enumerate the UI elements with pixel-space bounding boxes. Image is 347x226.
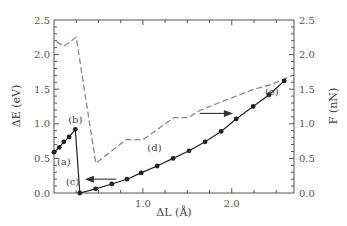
annotation-label: (c) <box>66 176 80 187</box>
data-point-marker <box>77 191 82 196</box>
y-tick-label: 1.0 <box>34 118 50 129</box>
data-point-marker <box>93 186 98 191</box>
data-point-marker <box>139 171 144 176</box>
y2-tick-label: 1.0 <box>299 118 315 129</box>
y2-tick-label: 2.5 <box>299 15 315 26</box>
y-tick-label: 0.5 <box>34 153 50 164</box>
data-point-marker <box>73 127 78 132</box>
data-point-marker <box>171 156 176 161</box>
energy-line <box>54 81 284 193</box>
annotation-label: (d) <box>147 142 161 153</box>
annotation-label: (b) <box>68 114 82 125</box>
data-point-marker <box>282 78 287 83</box>
data-point-marker <box>57 145 62 150</box>
y2-tick-label: 0.0 <box>299 188 315 199</box>
force-curve <box>57 37 293 163</box>
plot-frame <box>54 20 294 193</box>
y-tick-label: 0.0 <box>34 188 50 199</box>
arrow-left-icon <box>85 176 94 183</box>
y2-axis-title: F (nN) <box>327 88 340 124</box>
data-point-marker <box>67 135 72 140</box>
y-tick-label: 1.5 <box>34 84 50 95</box>
data-point-marker <box>219 129 224 134</box>
y-axis-title: ΔE (eV) <box>10 85 23 128</box>
x-tick-label: 1.0 <box>135 198 151 209</box>
annotation-label: (e) <box>265 86 279 97</box>
data-point-marker <box>187 148 192 153</box>
data-point-marker <box>203 139 208 144</box>
annotation-label: (a) <box>57 156 71 167</box>
chart: 1.02.00.00.51.01.52.02.50.00.51.01.52.02… <box>0 0 347 226</box>
arrow-right-icon <box>224 110 233 117</box>
y2-tick-label: 0.5 <box>299 153 315 164</box>
force-line <box>57 37 293 163</box>
y-tick-label: 2.0 <box>34 49 50 60</box>
x-axis-title: ΔL (Å) <box>156 205 191 219</box>
energy-curve <box>52 78 287 195</box>
data-point-marker <box>124 177 129 182</box>
data-point-marker <box>234 117 239 122</box>
y-tick-label: 2.5 <box>34 15 50 26</box>
point-annotations: (a)(b)(c)(d)(e) <box>57 86 279 187</box>
data-point-marker <box>251 104 256 109</box>
data-point-marker <box>155 164 160 169</box>
axis-ticks <box>54 20 294 193</box>
y2-tick-label: 2.0 <box>299 49 315 60</box>
data-point-marker <box>61 139 66 144</box>
data-point-marker <box>109 182 114 187</box>
y2-tick-label: 1.5 <box>299 84 315 95</box>
x-tick-label: 2.0 <box>224 198 240 209</box>
data-point-marker <box>52 150 57 155</box>
